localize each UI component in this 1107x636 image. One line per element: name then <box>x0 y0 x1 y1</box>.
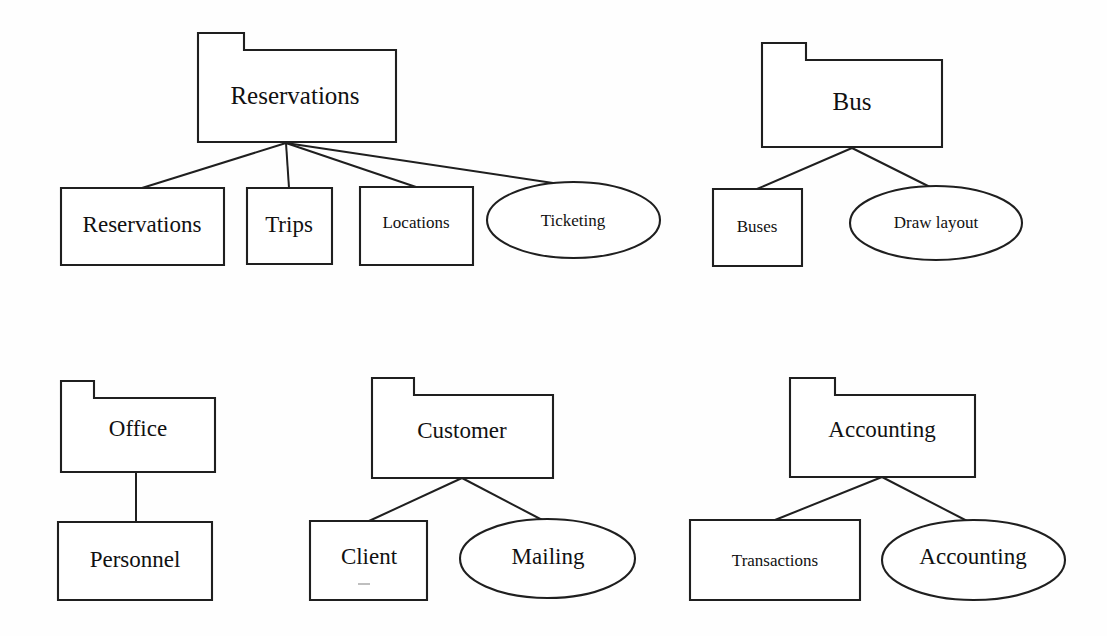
child-node-ticketing[interactable]: Ticketing <box>487 182 660 258</box>
child-node-mailing[interactable]: Mailing <box>460 519 635 598</box>
diagram-canvas: ReservationsReservationsTripsLocationsTi… <box>0 0 1107 636</box>
connector-line <box>369 478 462 521</box>
child-label: Locations <box>382 213 449 232</box>
connector-line <box>852 148 936 190</box>
child-node-personnel[interactable]: Personnel <box>58 522 212 600</box>
connector-line <box>775 477 882 520</box>
connector-line <box>286 143 573 186</box>
child-node-buses[interactable]: Buses <box>713 189 802 266</box>
package-label: Reservations <box>230 82 359 109</box>
child-label: Mailing <box>512 544 585 569</box>
child-label: Draw layout <box>894 213 979 232</box>
child-node-locations[interactable]: Locations <box>360 187 473 265</box>
child-node-transactions[interactable]: Transactions <box>690 520 860 600</box>
package-node-bus-group[interactable]: Bus <box>762 43 942 147</box>
package-label: Office <box>109 416 167 441</box>
child-label: Transactions <box>732 551 818 570</box>
connector-line <box>757 148 852 189</box>
package-node-office-group[interactable]: Office <box>61 381 215 472</box>
nodes-layer: ReservationsReservationsTripsLocationsTi… <box>58 33 1065 600</box>
connector-line <box>286 143 416 187</box>
package-label: Accounting <box>828 417 936 442</box>
child-label: Trips <box>265 212 313 237</box>
child-label: Ticketing <box>541 211 606 230</box>
package-node-accounting-group[interactable]: Accounting <box>790 378 975 477</box>
child-label: Buses <box>737 217 778 236</box>
package-label: Bus <box>833 88 872 115</box>
connector-line <box>286 143 289 188</box>
child-node-accounting[interactable]: Accounting <box>882 520 1065 600</box>
child-label: Personnel <box>90 547 181 572</box>
child-label: Client <box>341 544 398 569</box>
child-label: Accounting <box>919 544 1027 569</box>
connector-line <box>882 477 973 524</box>
child-node-trips[interactable]: Trips <box>247 188 332 264</box>
uml-package-diagram: ReservationsReservationsTripsLocationsTi… <box>0 0 1107 636</box>
connector-line <box>142 143 286 188</box>
package-label: Customer <box>417 418 507 443</box>
child-node-reservations[interactable]: Reservations <box>61 188 224 265</box>
child-node-client[interactable]: Client <box>310 521 427 600</box>
child-label: Reservations <box>83 212 202 237</box>
package-node-customer-group[interactable]: Customer <box>372 378 553 478</box>
connector-line <box>462 478 548 523</box>
package-node-reservations-group[interactable]: Reservations <box>198 33 396 142</box>
child-node-draw-layout[interactable]: Draw layout <box>850 186 1022 260</box>
